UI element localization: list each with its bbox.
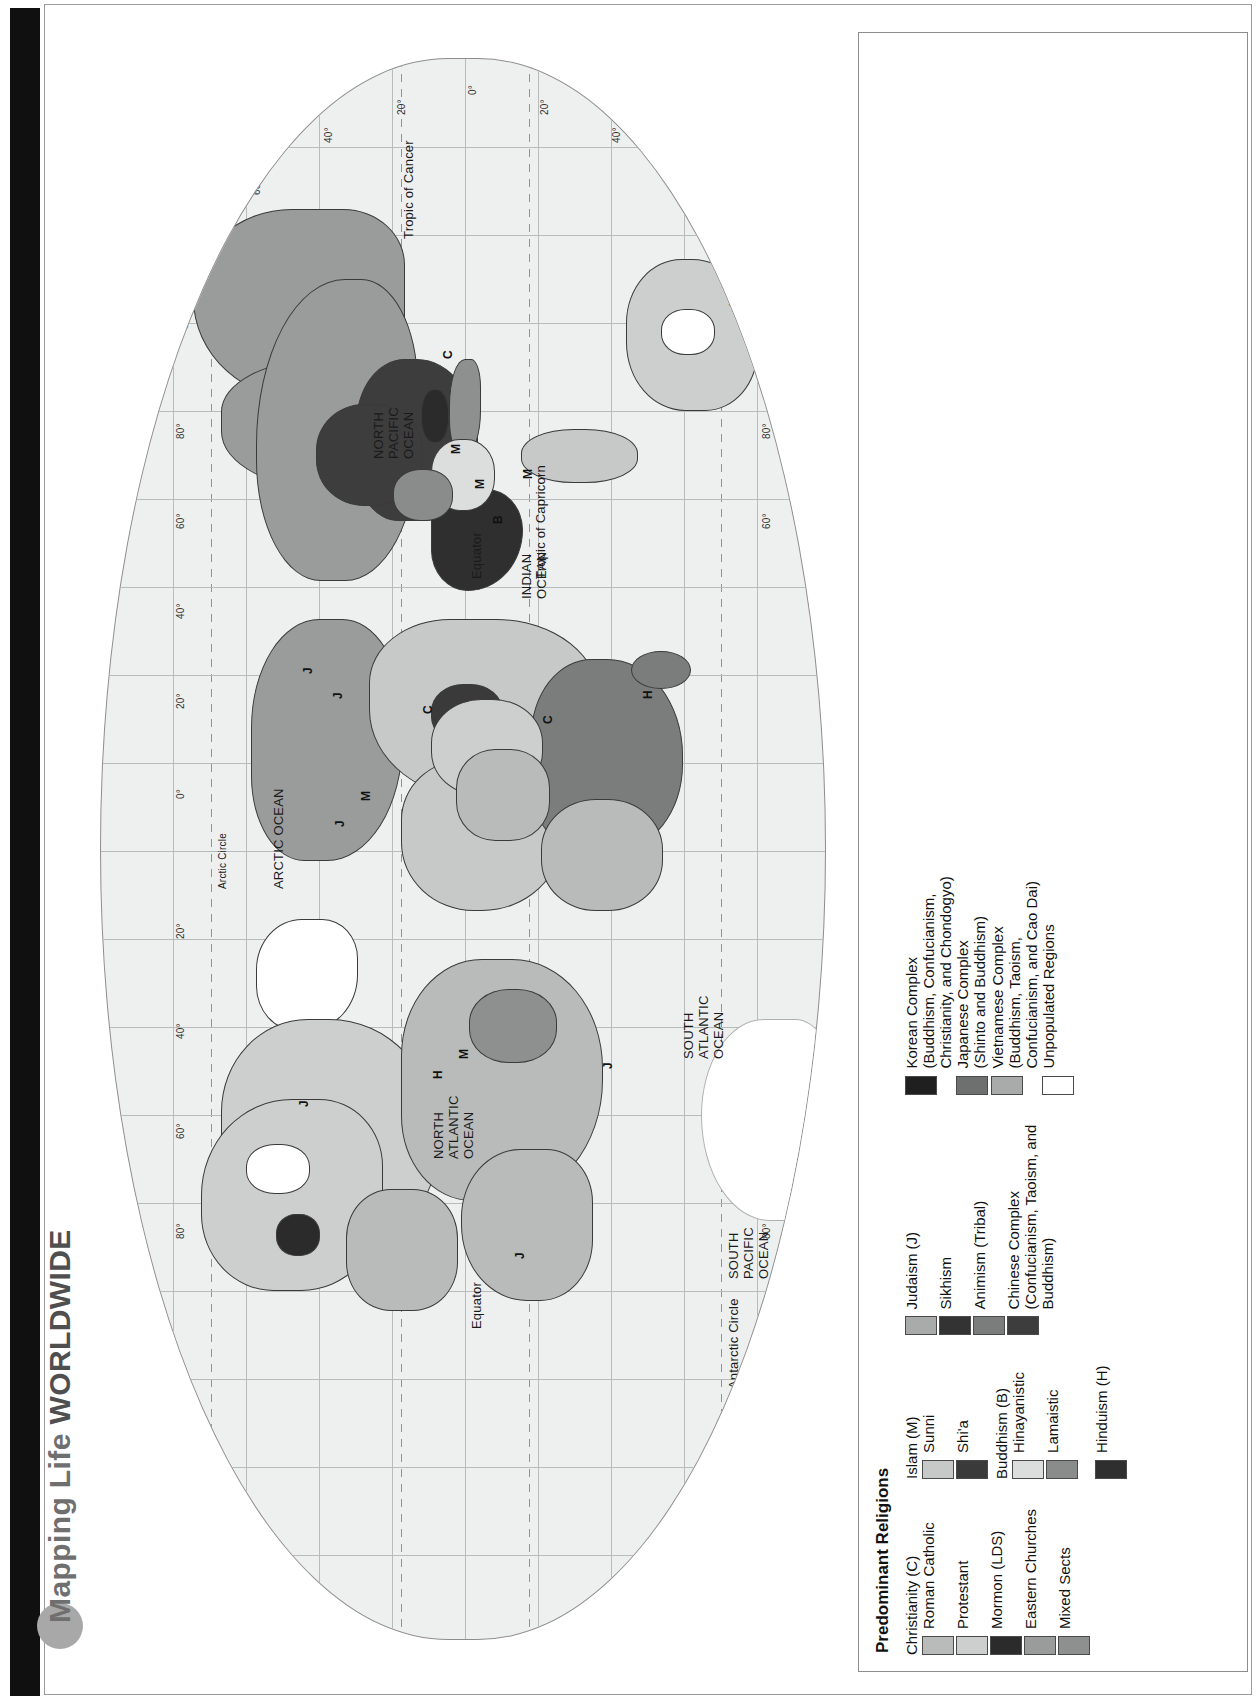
legend-swatch-icon (1058, 1636, 1090, 1655)
legend-group: Christianity (C)Roman CatholicProtestant… (903, 1509, 1091, 1655)
legend-item[interactable]: Eastern Churches (1023, 1509, 1056, 1655)
lon-tick: 60° (683, 179, 694, 195)
legend-item[interactable]: Unpopulated Regions (1041, 876, 1074, 1094)
legend-item[interactable]: Chinese Complex (Confucianism, Taoism, a… (1006, 1125, 1056, 1336)
legend-swatch-icon (1012, 1460, 1044, 1479)
legend-item-label: Roman Catholic (921, 1522, 938, 1629)
legend-group: Buddhism (B)HinayanisticLamaistic (993, 1365, 1079, 1479)
legend-item[interactable]: Lamaistic (1045, 1365, 1078, 1479)
legend-item[interactable]: Korean Complex (Buddhism, Confucianism, … (904, 876, 954, 1094)
legend-item-label: Hinayanistic (1011, 1372, 1028, 1453)
legend-column: Korean Complex (Buddhism, Confucianism, … (903, 876, 1077, 1094)
legend-spacer (1083, 1365, 1093, 1479)
graticule-line (757, 59, 758, 1639)
legend-item[interactable]: Japanese Complex (Shinto and Buddhism) (955, 876, 989, 1094)
landmass-region (631, 651, 691, 689)
lat-tick: 20° (175, 923, 186, 939)
legend-item-label: Unpopulated Regions (1041, 924, 1058, 1068)
graticule-line (101, 1555, 825, 1556)
map-code: M (359, 791, 373, 801)
legend-item[interactable]: Hinduism (H) (1094, 1365, 1127, 1479)
label-equator-left: Equator (469, 1282, 484, 1329)
map-code: M (521, 469, 535, 479)
legend-item-label: Judaism (J) (904, 1232, 921, 1310)
legend-item[interactable]: Shi'a (955, 1365, 988, 1479)
lon-tick: 80° (179, 313, 190, 329)
map-code: B (491, 515, 505, 524)
legend-group: Korean Complex (Buddhism, Confucianism, … (903, 876, 1075, 1094)
lon-tick: 40° (323, 127, 334, 143)
graticule-line (101, 1291, 825, 1292)
legend-item[interactable]: Roman Catholic (921, 1509, 954, 1655)
ocean-label-north-atlantic: NORTH ATLANTIC OCEAN (431, 1096, 476, 1159)
graticule-line (101, 235, 825, 236)
legend-swatch-icon (1042, 1076, 1074, 1095)
legend-item[interactable]: Vietnamese Complex (Buddhism, Taoism, Co… (990, 876, 1040, 1094)
legend-item-label: Chinese Complex (Confucianism, Taoism, a… (1006, 1125, 1056, 1310)
lat-tick: 80° (175, 1223, 186, 1239)
graticule-line (101, 1467, 825, 1468)
label-tropic-of-capricorn: Tropic of Capricorn (533, 465, 548, 579)
lon-tick: 40° (611, 127, 622, 143)
landmass-region (393, 469, 453, 521)
landmass-region (246, 1144, 310, 1194)
legend-swatch-icon (956, 1636, 988, 1655)
lon-tick: 20° (396, 99, 407, 115)
legend-group-heading: Christianity (C) (903, 1509, 920, 1655)
legend-item[interactable]: Sikhism (938, 1125, 971, 1336)
legend-swatch-icon (990, 1636, 1022, 1655)
legend-item-label: Japanese Complex (Shinto and Buddhism) (955, 916, 989, 1069)
map-code: J (331, 692, 345, 699)
legend-swatch-icon (991, 1076, 1023, 1095)
legend-item[interactable]: Hinayanistic (1011, 1365, 1044, 1479)
legend-group: Hinduism (H) (1083, 1365, 1128, 1479)
landmass-region (661, 309, 715, 355)
landmass-region (421, 389, 449, 443)
legend-item-label: Eastern Churches (1023, 1509, 1040, 1629)
legend-group-heading: Buddhism (B) (993, 1365, 1010, 1479)
world-map-graticule[interactable]: NORTH PACIFIC OCEAN ARCTIC OCEAN NORTH A… (100, 58, 826, 1640)
legend-item-label: Shi'a (955, 1420, 972, 1453)
legend-item-label: Vietnamese Complex (Buddhism, Taoism, Co… (990, 881, 1040, 1069)
legend-item-label: Animism (Tribal) (972, 1201, 989, 1310)
ocean-label-arctic: ARCTIC OCEAN (271, 788, 286, 889)
map-legend[interactable]: Predominant Religions Christianity (C)Ro… (858, 32, 1248, 1672)
landmass-region (346, 1189, 458, 1311)
lat-tick: 40° (175, 603, 186, 619)
legend-columns: Christianity (C)Roman CatholicProtestant… (903, 49, 1130, 1655)
map-code: C (421, 705, 435, 714)
map-code: M (457, 1049, 471, 1059)
label-tropic-of-cancer: Tropic of Cancer (401, 140, 416, 239)
legend-item[interactable]: Mormon (LDS) (989, 1509, 1022, 1655)
map-code: J (513, 1252, 527, 1259)
label-antarctic-circle-right: Antarctic Circle (726, 218, 741, 309)
landmass-region (461, 1149, 593, 1301)
map-code: J (333, 820, 347, 827)
legend-swatch-icon (1007, 1316, 1039, 1335)
legend-group-heading: Islam (M) (903, 1365, 920, 1479)
lon-tick: 60° (251, 179, 262, 195)
legend-item[interactable]: Sunni (921, 1365, 954, 1479)
legend-swatch-icon (956, 1460, 988, 1479)
legend-swatch-icon (905, 1316, 937, 1335)
legend-item[interactable]: Judaism (J) (904, 1125, 937, 1336)
map-panel[interactable]: NORTH PACIFIC OCEAN ARCTIC OCEAN NORTH A… (78, 28, 848, 1673)
legend-item[interactable]: Mixed Sects (1057, 1509, 1090, 1655)
legend-item[interactable]: Protestant (955, 1509, 988, 1655)
lat-tick: 60° (761, 513, 772, 529)
map-code: C (541, 715, 555, 724)
landmass-region (256, 919, 358, 1031)
lat-tick: 60° (175, 1123, 186, 1139)
legend-swatch-icon (922, 1460, 954, 1479)
landmass-region (456, 749, 550, 841)
legend-swatch-icon (1095, 1460, 1127, 1479)
title-text: Mapping Life WORLDWIDE (43, 1229, 77, 1623)
lon-tick: 20° (539, 99, 550, 115)
legend-item[interactable]: Animism (Tribal) (972, 1125, 1005, 1336)
label-equator-right: Equator (469, 532, 484, 579)
map-code: H (641, 690, 655, 699)
graticule-line (101, 939, 825, 940)
map-code: M (449, 444, 463, 454)
legend-swatch-icon (973, 1316, 1005, 1335)
map-code: C (441, 350, 455, 359)
